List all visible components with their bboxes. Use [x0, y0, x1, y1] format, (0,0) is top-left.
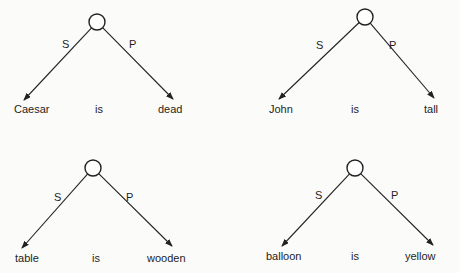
subject-arrow	[282, 174, 350, 246]
predicate-word: tall	[424, 103, 438, 115]
subject-word: table	[15, 252, 39, 264]
predicate-arrow	[361, 174, 433, 245]
predicate-arrow	[103, 28, 173, 99]
copula-word: is	[92, 252, 100, 264]
predicate-edge-label: P	[391, 189, 398, 201]
predicate-edge-label: P	[389, 39, 396, 51]
root-node-circle	[85, 160, 101, 176]
subject-edge-label: S	[316, 39, 323, 51]
diagram-canvas: S P Caesar is dead S P John is tall S P …	[0, 0, 459, 273]
subject-word: John	[269, 103, 293, 115]
predicate-arrow	[370, 23, 434, 98]
copula-word: is	[351, 103, 359, 115]
copula-word: is	[95, 103, 103, 115]
subject-arrow	[24, 28, 92, 100]
root-node-circle	[89, 14, 105, 30]
subject-arrow	[22, 174, 88, 248]
predicate-edge-label: P	[126, 191, 133, 203]
predicate-word: yellow	[405, 250, 436, 262]
subject-edge-label: S	[315, 189, 322, 201]
root-node-circle	[347, 160, 363, 176]
root-node-circle	[357, 9, 373, 25]
predicate-word: wooden	[146, 252, 186, 264]
subject-edge-label: S	[54, 191, 61, 203]
tree-balloon: S P balloon is yellow	[266, 160, 436, 262]
predicate-arrow	[99, 174, 172, 246]
subject-word: balloon	[266, 250, 301, 262]
copula-word: is	[351, 250, 359, 262]
tree-john: S P John is tall	[269, 9, 438, 115]
subject-edge-label: S	[62, 38, 69, 50]
tree-caesar: S P Caesar is dead	[14, 14, 182, 115]
predicate-word: dead	[158, 103, 182, 115]
predicate-edge-label: P	[129, 38, 136, 50]
subject-arrow	[279, 23, 359, 99]
subject-word: Caesar	[14, 103, 50, 115]
tree-table: S P table is wooden	[15, 160, 186, 264]
